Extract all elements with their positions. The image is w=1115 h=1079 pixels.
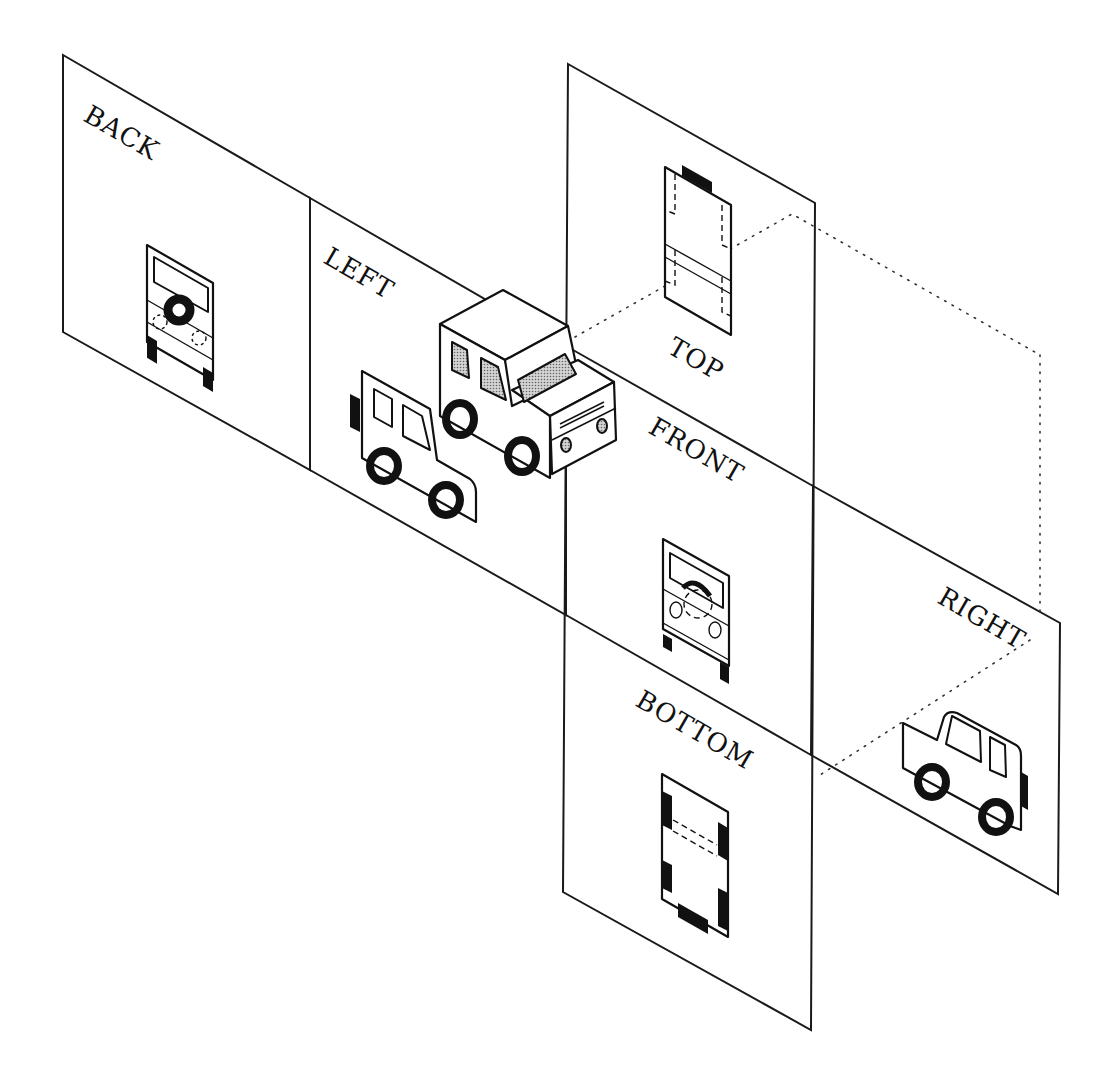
label-front: FRONT bbox=[644, 411, 749, 489]
back-view-vehicle bbox=[147, 245, 213, 392]
label-right: RIGHT bbox=[933, 581, 1031, 655]
right-plane bbox=[811, 486, 1060, 894]
front-view-vehicle bbox=[663, 539, 729, 684]
projection-diagram: BACK LEFT TOP FRONT RIGHT BOTTOM bbox=[0, 0, 1115, 1079]
planes bbox=[63, 55, 1060, 1030]
top-view-vehicle bbox=[665, 165, 731, 335]
label-bottom: BOTTOM bbox=[631, 684, 759, 775]
right-view-vehicle bbox=[903, 712, 1028, 832]
projection-line-top bbox=[575, 214, 1040, 355]
label-back: BACK bbox=[79, 99, 164, 166]
label-top: TOP bbox=[663, 331, 729, 387]
label-left: LEFT bbox=[319, 241, 400, 305]
bottom-view-vehicle bbox=[662, 774, 728, 937]
isometric-vehicle bbox=[440, 290, 616, 478]
diagram-canvas: BACK LEFT TOP FRONT RIGHT BOTTOM bbox=[0, 0, 1115, 1079]
